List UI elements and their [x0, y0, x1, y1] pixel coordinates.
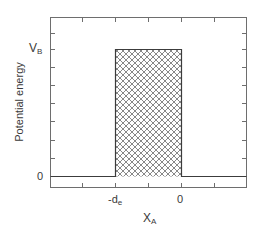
bottom-ticks — [83, 183, 215, 188]
y-tick-label-vb: VB — [29, 42, 42, 56]
x-tick-de-sub: e — [118, 198, 122, 207]
top-ticks — [83, 18, 215, 23]
potential-barrier-diagram — [0, 0, 261, 236]
left-ticks — [51, 34, 56, 177]
x-tick-zero-main: 0 — [177, 193, 183, 205]
x-tick-label-de: -de — [108, 194, 122, 207]
y-axis-label: Potential energy — [13, 62, 25, 142]
x-tick-de-main: -d — [108, 193, 118, 205]
y-tick-vb-sub: B — [37, 47, 42, 56]
right-ticks — [242, 34, 247, 177]
x-tick-label-zero: 0 — [177, 194, 183, 205]
x-axis-label-main: X — [143, 211, 151, 225]
barrier-fill — [116, 50, 182, 177]
y-tick-vb-main: V — [29, 41, 37, 55]
y-tick-zero-main: 0 — [37, 170, 43, 182]
x-axis-label-sub: A — [151, 217, 156, 226]
x-axis-label: XA — [143, 212, 156, 226]
y-tick-label-zero: 0 — [37, 171, 43, 182]
